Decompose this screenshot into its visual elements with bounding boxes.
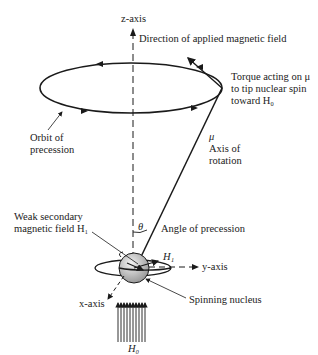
x-axis-label: x-axis xyxy=(79,298,105,310)
orbit-of-precession xyxy=(40,63,222,113)
z-axis-label: z-axis xyxy=(121,13,146,25)
mu-label: μ xyxy=(209,131,214,143)
mu-axis-line xyxy=(138,88,222,263)
angle-precession-label: Angle of precession xyxy=(161,223,245,235)
z-axis-arrow-icon xyxy=(130,28,136,36)
h0-field-arrows xyxy=(118,303,145,342)
spinning-nucleus-label: Spinning nucleus xyxy=(189,294,262,306)
torque-arrow xyxy=(188,58,222,88)
theta-label: θ xyxy=(138,221,143,233)
y-axis-label: y-axis xyxy=(202,261,228,273)
applied-field-label: Direction of applied magnetic field xyxy=(139,33,287,45)
x-axis-line xyxy=(108,276,124,299)
y-axis-arrow-icon xyxy=(192,264,199,270)
torque-label-3: toward H₀ xyxy=(231,95,274,107)
weak-field-label-2: magnetic field H₁ xyxy=(14,223,88,235)
weak-field-label-1: Weak secondary xyxy=(14,211,83,223)
torque-label-1: Torque acting on μ xyxy=(231,71,310,83)
precession-diagram xyxy=(0,0,318,355)
orbit-label-2: precession xyxy=(30,144,74,156)
axis-rotation-label-2: rotation xyxy=(209,155,242,167)
h0-label: H₀ xyxy=(128,343,139,355)
torque-label-2: to tip nuclear spin xyxy=(231,83,307,95)
axis-rotation-label-1: Axis of xyxy=(209,143,240,155)
orbit-label-1: Orbit of xyxy=(30,132,64,144)
h1-label: H₁ xyxy=(163,251,174,263)
